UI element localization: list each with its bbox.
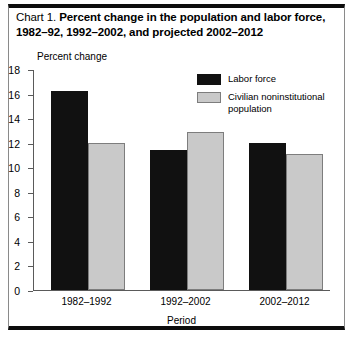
y-tick-label: 10 bbox=[8, 162, 20, 174]
y-tick: 2 bbox=[28, 266, 33, 267]
y-tick-label: 6 bbox=[14, 211, 20, 223]
x-axis-line bbox=[33, 290, 330, 291]
y-tick-label: 2 bbox=[14, 260, 20, 272]
y-tick-label: 14 bbox=[8, 113, 20, 125]
y-axis-title: Percent change bbox=[37, 51, 107, 62]
chart-title-text: Percent change in the population and lab… bbox=[16, 11, 325, 38]
y-tick-label: 18 bbox=[8, 64, 20, 76]
legend-swatch-labor-force bbox=[197, 74, 221, 85]
y-tick: 16 bbox=[28, 95, 33, 96]
y-tick-label: 16 bbox=[8, 89, 20, 101]
y-tick-label: 12 bbox=[8, 138, 20, 150]
y-tick-label: 8 bbox=[14, 187, 20, 199]
y-tick: 4 bbox=[28, 242, 33, 243]
y-tick: 14 bbox=[28, 119, 33, 120]
y-tick-label: 0 bbox=[14, 285, 20, 297]
y-tick: 8 bbox=[28, 193, 33, 194]
chart-figure: Chart 1. Percent change in the populatio… bbox=[0, 0, 353, 338]
legend-item-labor-force: Labor force bbox=[197, 73, 337, 85]
legend-item-civilian-population: Civilian noninstitutional population bbox=[197, 91, 337, 114]
bar-civilian-population[interactable] bbox=[286, 154, 323, 290]
y-tick: 10 bbox=[28, 168, 33, 169]
chart-title-number: Chart 1. bbox=[16, 11, 56, 23]
y-tick: 12 bbox=[28, 144, 33, 145]
bar-civilian-population[interactable] bbox=[88, 143, 125, 290]
bar-labor-force[interactable] bbox=[51, 91, 88, 290]
legend-swatch-civilian-population bbox=[197, 92, 221, 103]
bar-labor-force[interactable] bbox=[249, 143, 286, 290]
bar-labor-force[interactable] bbox=[150, 150, 187, 290]
bar-civilian-population[interactable] bbox=[187, 132, 224, 290]
x-tick-label: 1982–1992 bbox=[61, 296, 111, 307]
chart-legend: Labor force Civilian noninstitutional po… bbox=[197, 73, 337, 120]
bar-group bbox=[51, 70, 125, 290]
y-tick: 18 bbox=[28, 70, 33, 71]
y-tick: 6 bbox=[28, 217, 33, 218]
x-axis-title: Period bbox=[167, 315, 196, 326]
y-tick-label: 4 bbox=[14, 236, 20, 248]
x-tick-label: 2002–2012 bbox=[259, 296, 309, 307]
legend-label-labor-force: Labor force bbox=[228, 73, 276, 85]
x-tick-label: 1992–2002 bbox=[160, 296, 210, 307]
legend-label-civilian-population: Civilian noninstitutional population bbox=[228, 91, 337, 114]
y-tick: 0 bbox=[28, 291, 33, 292]
chart-title: Chart 1. Percent change in the populatio… bbox=[16, 10, 338, 40]
